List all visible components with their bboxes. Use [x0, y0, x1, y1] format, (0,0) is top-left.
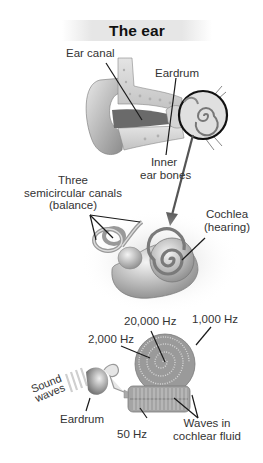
label-cochlea: Cochlea (hearing): [200, 208, 254, 233]
label-eardrum-top: Eardrum: [155, 67, 199, 80]
label-waves-cochlear-fluid: Waves in cochlear fluid: [168, 417, 246, 442]
label-20000-hz: 20,000 Hz: [124, 315, 176, 328]
label-1000-hz: 1,000 Hz: [192, 313, 238, 326]
label-semicircular-canals: Three semicircular canals (balance): [14, 174, 132, 212]
label-50-hz: 50 Hz: [117, 428, 147, 441]
label-ear-canal: Ear canal: [66, 47, 115, 60]
label-2000-hz: 2,000 Hz: [88, 333, 134, 346]
label-inner-ear-bones: Inner ear bones: [140, 156, 188, 181]
label-eardrum-bottom: Eardrum: [60, 413, 104, 426]
cochlea-frequency-illustration: [66, 334, 195, 412]
